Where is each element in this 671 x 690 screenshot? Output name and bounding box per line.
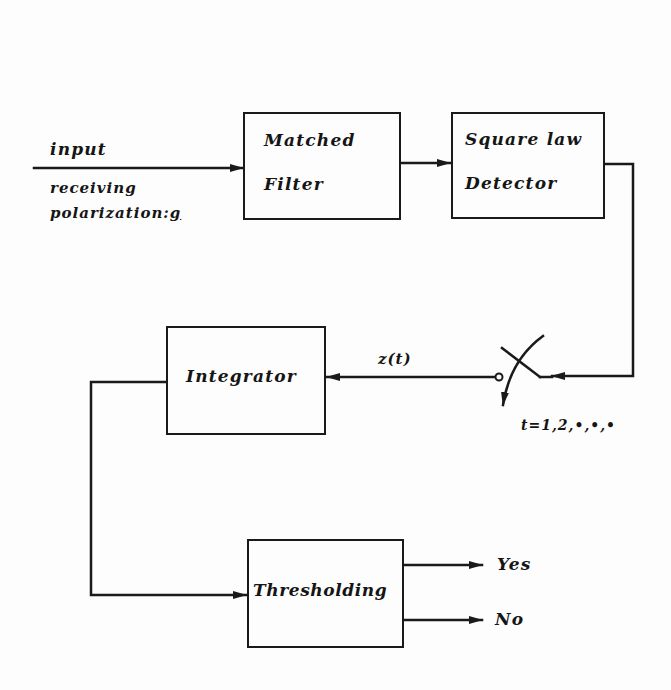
switch-blade [502,348,540,377]
receiving-label: receiving [50,181,137,196]
block-diagram: input receiving polarization:g Matched F… [0,0,671,690]
polarization-symbol: g [170,204,182,222]
polarization-label: polarization:g [50,206,181,221]
output-yes-label: Yes [497,556,532,573]
input-label: input [50,141,107,158]
output-no-label: No [495,611,524,628]
sampling-label: t=1,2,•,•,• [521,418,616,432]
square-law-label-2: Detector [465,175,557,192]
matched-filter-label-1: Matched [264,132,356,149]
switch-actuation-arc [503,336,543,405]
thresholding-label: Thresholding [253,582,387,599]
square-law-label-1: Square law [465,131,582,148]
switch-terminal [496,374,503,381]
matched-filter-label-2: Filter [264,176,324,193]
signal-label: z(t) [378,352,412,367]
integrator-label: Integrator [186,368,297,385]
matched-filter-block [243,112,401,220]
polarization-prefix: polarization: [50,204,170,222]
